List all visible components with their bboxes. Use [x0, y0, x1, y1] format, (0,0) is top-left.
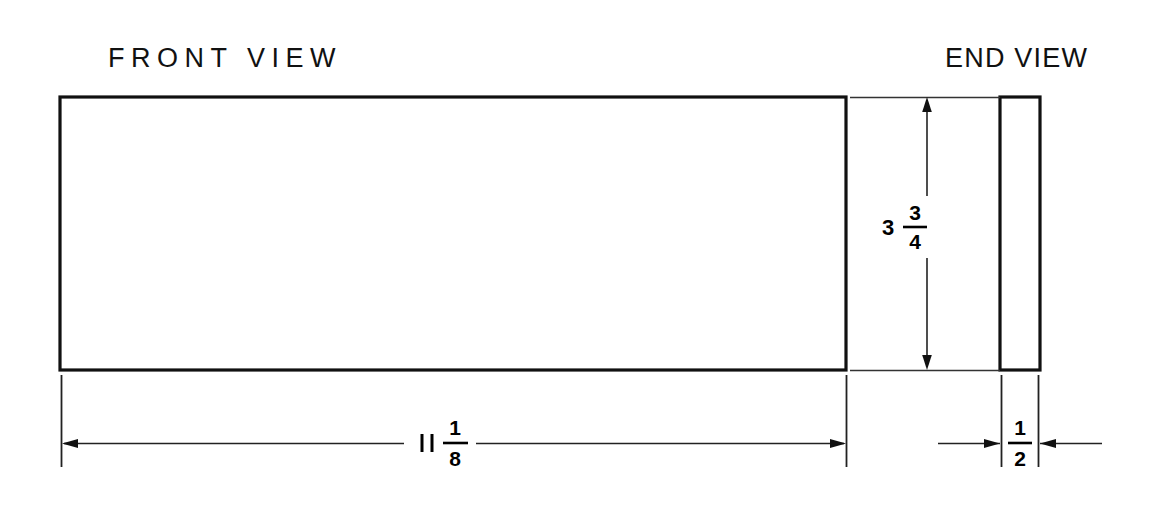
height-dimension-whole: 3	[882, 215, 894, 240]
length-dimension-numerator: 1	[449, 416, 461, 439]
length-dimension-denominator: 8	[449, 447, 461, 470]
drawing-canvas: FRONT VIEW END VIEW 3 3	[0, 0, 1149, 507]
drawing-background	[0, 0, 1149, 507]
thickness-dimension-denominator: 2	[1014, 447, 1026, 470]
height-dimension-denominator: 4	[909, 230, 921, 253]
front-view-label: FRONT VIEW	[108, 43, 342, 73]
height-dimension-numerator: 3	[909, 201, 921, 224]
thickness-dimension-numerator: 1	[1014, 416, 1026, 439]
end-view-label: END VIEW	[945, 43, 1088, 73]
engineering-drawing: FRONT VIEW END VIEW 3 3	[0, 0, 1149, 507]
